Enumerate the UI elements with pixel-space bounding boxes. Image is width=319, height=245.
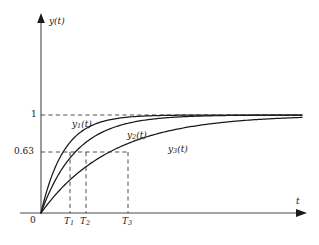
x-tick-label-T2: T2: [80, 216, 90, 227]
reference-lines-vertical: [70, 152, 128, 213]
y-axis-label: y(t): [49, 16, 65, 26]
x-axis-label: t: [296, 196, 300, 206]
y-axis-arrowhead: [37, 13, 45, 23]
curve-label-y1: y1(t): [72, 119, 92, 130]
y-tick-label-063: 0.63: [14, 146, 34, 156]
x-tick-label-T1: T1: [64, 216, 74, 227]
origin-label: 0: [30, 215, 36, 225]
step-response-figure: y(t) t 0 1 0.63 T1 T2 T3 y1(t) y2(t) y3(…: [0, 0, 319, 245]
x-tick-label-T3: T3: [122, 216, 132, 227]
y-tick-label-1: 1: [31, 109, 37, 119]
plot-canvas: [0, 0, 319, 245]
curve-label-y2: y2(t): [127, 130, 147, 141]
x-axis-arrowhead: [296, 209, 307, 217]
curve-label-y3: y3(t): [168, 144, 188, 155]
